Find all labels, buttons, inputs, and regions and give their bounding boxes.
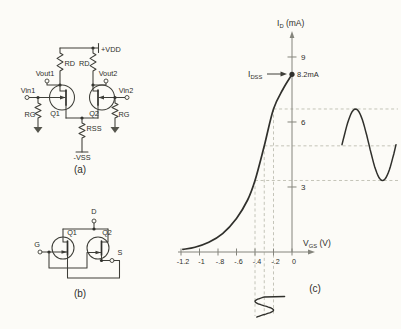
y-tick-label: 9 <box>301 53 306 62</box>
input-waveform <box>255 297 285 318</box>
y-tick-label: 3 <box>301 183 306 192</box>
drain-terminal-icon <box>92 219 96 223</box>
q1-gate-arrow-icon <box>62 250 68 254</box>
vin2-terminal-icon <box>125 96 129 100</box>
x-tick-label: -.8 <box>216 257 224 266</box>
vdd-label: +VDD <box>101 45 121 54</box>
rd-right-label: RD <box>79 59 90 68</box>
y-axis-arrow-icon <box>290 31 295 38</box>
idss-label-sub: DSS <box>250 74 262 80</box>
vout1-label: Vout1 <box>36 69 55 78</box>
q1-label: Q1 <box>50 109 60 118</box>
figure-svg: +VDD RD RD Vout1 Vout2 Vin1 Vin2 Q1 Q2 R… <box>0 0 401 329</box>
figure-c-caption: (c) <box>309 283 321 294</box>
x-axis-title: VGS (V) <box>303 238 331 249</box>
junction-dot <box>92 227 95 230</box>
source-terminal-icon <box>110 259 114 263</box>
resistor-rg-left-icon <box>35 98 41 128</box>
plot-area: -1.2-1-.8-.6-.4-.20369 <box>177 31 398 317</box>
y-tick-label: 6 <box>301 118 306 127</box>
vin1-terminal-icon <box>25 96 29 100</box>
vout1-tap-wire <box>47 83 60 85</box>
source-label: S <box>118 248 123 257</box>
vout2-label: Vout2 <box>99 69 118 78</box>
q2-gate-arrow-icon <box>96 251 102 255</box>
ground-right-icon <box>111 127 120 133</box>
gate-loop-wire <box>49 252 101 268</box>
idss-annotation-label: IDSS <box>248 69 262 80</box>
ground-left-icon <box>34 127 43 133</box>
transfer-curve-graph: -1.2-1-.8-.6-.4-.20369 ID (mA) VGS (V) I… <box>177 18 398 317</box>
x-axis-title-sub: GS <box>309 243 318 249</box>
q2-jfet-symbol <box>87 237 109 259</box>
vin2-label: Vin2 <box>119 86 133 95</box>
x-axis-arrow-icon <box>308 250 315 255</box>
q1-gate-arrow-icon <box>60 96 66 100</box>
q2-gate-arrow-icon <box>99 96 105 100</box>
vss-label: -VSS <box>73 153 90 162</box>
junction-dot <box>100 259 103 262</box>
circuit-b-diagram: D G S Q1 Q2 (b) <box>34 207 122 299</box>
q2-label: Q2 <box>89 109 99 118</box>
y-axis-title: ID (mA) <box>277 18 305 29</box>
circuit-a-diagram: +VDD RD RD Vout1 Vout2 Vin1 Vin2 Q1 Q2 R… <box>21 44 133 176</box>
figure-canvas: +VDD RD RD Vout1 Vout2 Vin1 Vin2 Q1 Q2 R… <box>0 0 401 329</box>
gate-terminal-icon <box>38 250 42 254</box>
figure-b-caption: (b) <box>74 288 86 299</box>
resistor-rd-right-icon <box>90 48 96 85</box>
rss-label: RSS <box>87 124 102 133</box>
rg-left-label: RG <box>25 110 36 119</box>
rd-left-label: RD <box>65 59 76 68</box>
y-axis-title-unit: (mA) <box>284 18 305 28</box>
x-tick-label: 0 <box>292 257 296 266</box>
transfer-curve <box>183 74 292 249</box>
x-tick-label: -1 <box>198 257 204 266</box>
idss-value-label: 8.2mA <box>297 70 319 79</box>
idss-arrow-icon <box>281 72 288 77</box>
x-tick-label: -.6 <box>234 257 242 266</box>
vout2-terminal-icon <box>104 79 108 83</box>
vout1-terminal-icon <box>45 79 49 83</box>
figure-a-caption: (a) <box>74 164 86 175</box>
gate-label: G <box>34 240 40 249</box>
x-tick-label: -1.2 <box>177 257 189 266</box>
output-waveform <box>342 109 396 181</box>
q1-label: Q1 <box>67 228 77 237</box>
rg-right-label: RG <box>119 110 130 119</box>
x-tick-label: -.2 <box>271 257 279 266</box>
resistor-rss-icon <box>79 118 85 152</box>
vin1-label: Vin1 <box>21 86 35 95</box>
resistor-rg-right-icon <box>112 98 118 128</box>
resistor-rd-left-icon <box>57 48 63 85</box>
q2-label: Q2 <box>102 228 112 237</box>
x-tick-label: -.4 <box>253 257 261 266</box>
x-axis-title-unit: (V) <box>317 238 331 248</box>
drain-label: D <box>91 207 96 216</box>
idss-point <box>289 72 294 77</box>
